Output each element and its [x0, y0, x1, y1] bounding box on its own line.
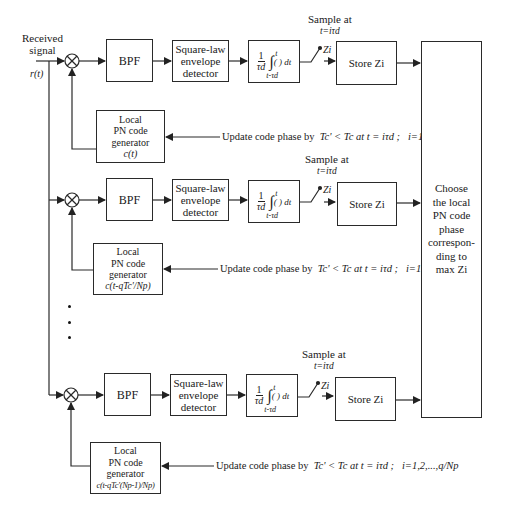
update-math: Tc' < Tc at t = iτd ; [314, 460, 394, 471]
received-signal-line1: Received [22, 32, 63, 44]
square-law-detector-2: Square-law envelope detector [172, 179, 229, 221]
bpf-label: BPF [119, 55, 140, 67]
integral-upper-limit: t [275, 188, 277, 200]
sample-line2: t=iτd [305, 165, 349, 177]
bpf-block-3: BPF [104, 373, 151, 416]
store-label: Store Zi [348, 393, 384, 405]
decision-line: the local [433, 196, 471, 210]
decision-line: max Zi [436, 263, 467, 277]
decision-line: ding to [436, 250, 467, 264]
detector-line: envelope [181, 194, 221, 206]
bpf-block-2: BPF [106, 178, 153, 221]
store-block-3: Store Zi [335, 377, 396, 421]
integral-sign-icon: ∫tt-τd [269, 56, 273, 68]
fraction-denominator: τd [257, 62, 266, 72]
integral-upper-limit: t [275, 48, 277, 60]
ellipsis-dot [68, 321, 71, 324]
sample-line1: Sample at [302, 348, 346, 360]
generator-line: generator [109, 269, 147, 281]
generator-line: PN code [113, 125, 147, 137]
update-label-3: Update code phase by Tc' < Tc at t = iτd… [216, 460, 459, 472]
switch-label-3: Zi [321, 380, 329, 392]
generator-code: c(t) [124, 148, 138, 160]
generator-code: c(t-qTc'(Np-1)/Np) [97, 480, 155, 492]
integrator-fraction: 1τd [257, 51, 266, 72]
pn-code-generator-2: Local PN code generator c(t-qTc'/Np) [93, 243, 163, 295]
integral-lower-limit: t-τd [266, 70, 278, 82]
generator-line: Local [114, 445, 137, 457]
square-law-detector-3: Square-law envelope detector [170, 374, 227, 416]
integral-sign-icon: ∫tt-τd [267, 390, 271, 402]
detector-line: detector [183, 206, 218, 218]
received-signal-label: Received signal [22, 32, 63, 56]
bpf-label: BPF [117, 389, 138, 401]
integral-sign-icon: ∫tt-τd [269, 196, 273, 208]
store-block-2: Store Zi [337, 182, 397, 226]
fraction-denominator: τd [255, 396, 264, 406]
fraction-denominator: τd [257, 202, 266, 212]
decision-line: PN code [433, 209, 471, 223]
square-law-detector-1: Square-law envelope detector [172, 40, 229, 82]
update-text: Update code phase by [220, 263, 312, 274]
detector-line: Square-law [175, 43, 225, 55]
integrator-fraction: 1τd [257, 191, 266, 212]
generator-line: generator [107, 468, 145, 480]
store-label: Store Zi [349, 57, 385, 69]
decision-line: Choose [435, 182, 468, 196]
generator-line: generator [112, 137, 150, 149]
pn-code-generator-1: Local PN code generator c(t) [96, 110, 165, 163]
update-text: Update code phase by [216, 460, 308, 471]
sample-label-2: Sample at t=iτd [305, 153, 349, 177]
sample-line1: Sample at [305, 153, 349, 165]
sample-line2: t=iτd [302, 360, 346, 372]
decision-line: correspon- [428, 236, 475, 250]
detector-line: detector [183, 67, 218, 79]
integrator-block-1: 1τd ∫tt-τd ( ) dt [248, 40, 300, 83]
integral-lower-limit: t-τd [264, 404, 276, 416]
sample-line2: t=iτd [308, 25, 352, 37]
generator-line: Local [117, 246, 140, 258]
integral-lower-limit: t-τd [266, 210, 278, 222]
integrator-block-3: 1τd ∫tt-τd ( ) dt [246, 374, 298, 417]
sample-line1: Sample at [308, 13, 352, 25]
bpf-block-1: BPF [106, 39, 153, 82]
detector-line: envelope [179, 389, 219, 401]
bpf-label: BPF [119, 194, 140, 206]
ellipsis-dot [68, 336, 71, 339]
switch-label-1: Zi [323, 44, 331, 56]
store-block-1: Store Zi [336, 41, 397, 85]
input-signal-symbol: r(t) [30, 68, 43, 80]
generator-line: PN code [111, 258, 145, 270]
switch-label-2: Zi [323, 184, 331, 196]
generator-code: c(t-qTc'/Np) [105, 281, 150, 293]
sample-label-1: Sample at t=iτd [308, 13, 352, 37]
detector-line: Square-law [175, 182, 225, 194]
update-text: Update code phase by [222, 131, 314, 142]
received-signal-line2: signal [22, 44, 63, 56]
integral-upper-limit: t [273, 382, 275, 394]
decision-line: phase [439, 223, 464, 237]
pn-code-generator-3: Local PN code generator c(t-qTc'(Np-1)/N… [90, 442, 161, 494]
detector-line: envelope [181, 55, 221, 67]
ellipsis-dot [68, 305, 71, 308]
integrator-block-2: 1τd ∫tt-τd ( ) dt [248, 180, 300, 223]
store-label: Store Zi [349, 198, 385, 210]
generator-line: PN code [108, 457, 142, 469]
sample-label-3: Sample at t=iτd [302, 348, 346, 372]
generator-line: Local [119, 114, 142, 126]
update-math: Tc' < Tc at t = iτd ; [318, 263, 398, 274]
detector-line: Square-law [173, 377, 223, 389]
integrator-fraction: 1τd [255, 385, 264, 406]
update-math: Tc' < Tc at t = iτd ; [320, 131, 400, 142]
update-range: i=1,2,...,q/Np [402, 460, 459, 471]
detector-line: detector [181, 401, 216, 413]
max-selection-block: Choose the local PN code phase correspon… [421, 41, 482, 418]
